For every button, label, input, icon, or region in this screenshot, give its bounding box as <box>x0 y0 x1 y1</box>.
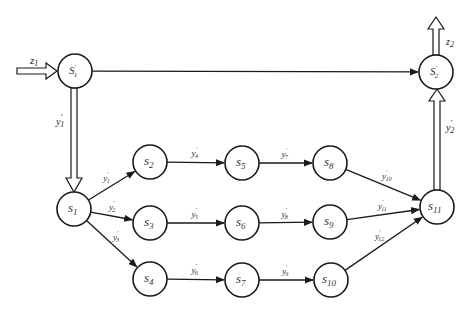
label-y2-prime: y'2 <box>445 119 454 135</box>
edge-label-s9-s11: y'11 <box>377 199 387 212</box>
edge-s1-s3 <box>91 212 133 220</box>
node-s9: s9 <box>313 205 347 239</box>
nodes-layer: S'1S'2s1s2s3s4s5s6s7s8s9s10s11 <box>57 54 454 297</box>
node-s3: s3 <box>133 206 167 240</box>
edge-label-s1-s3: y'2 <box>108 200 115 213</box>
double-arrow-s11-S2p <box>429 89 445 190</box>
edge-label-s6-s9: y'8 <box>280 207 287 220</box>
edge-s6-s9 <box>259 222 312 223</box>
node-s1: s1 <box>57 192 91 226</box>
node-s7: s7 <box>225 263 259 297</box>
edge-label-s5-s8: y'7 <box>281 147 289 160</box>
edge-s2-s5 <box>167 162 224 163</box>
labels-layer: z1 z2 y'1 y'2 <box>29 36 454 135</box>
label-z2: z2 <box>445 36 454 49</box>
label-y1-prime: y'1 <box>55 113 64 129</box>
node-s11: s11 <box>420 190 454 224</box>
node-S1p: S'1 <box>58 54 92 88</box>
output-arrow-z2 <box>428 17 444 55</box>
node-s6: s6 <box>225 206 259 240</box>
node-s2: s2 <box>133 145 167 179</box>
label-z1: z1 <box>29 54 38 68</box>
node-s4: s4 <box>133 262 167 296</box>
edge-s1-s2 <box>88 171 134 200</box>
edge-label-s4-s7: y'6 <box>191 263 198 276</box>
edge-label-s1-s4: y'3 <box>112 230 119 243</box>
node-S2p: S'2 <box>419 55 453 89</box>
double-arrow-S1p-s1 <box>66 88 82 192</box>
edge-label-s2-s5: y'4 <box>191 146 198 159</box>
state-transition-diagram: y'1y'2y'3y'4y'5y'6y'7y'8y'9y'10y'11y'12 … <box>0 0 472 315</box>
edge-label-s3-s6: y'5 <box>191 207 198 220</box>
edge-label-s10-s11: y'12 <box>374 229 384 242</box>
node-s5: s5 <box>225 146 259 180</box>
edge-s1-s4 <box>87 221 137 267</box>
edge-s4-s7 <box>167 279 224 280</box>
edge-label-s7-s10: y'9 <box>281 264 288 277</box>
edge-label-s1-s2: y'1 <box>102 171 109 184</box>
node-s10: s10 <box>314 263 348 297</box>
edge-s10-s11 <box>345 217 422 270</box>
edge-label-s8-s11: y'10 <box>381 169 391 182</box>
edge-S1p-S2p <box>92 71 418 72</box>
node-s8: s8 <box>313 146 347 180</box>
